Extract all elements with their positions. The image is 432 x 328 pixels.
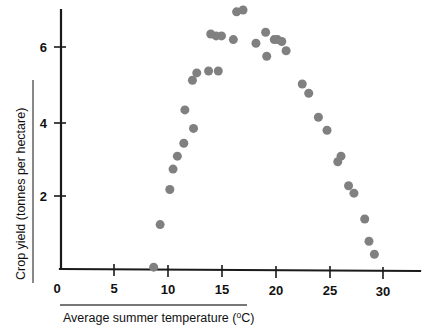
data-point (298, 80, 307, 89)
data-point (180, 105, 189, 114)
data-point (217, 31, 226, 40)
data-point (344, 181, 353, 190)
y-tick-label-2: 2 (40, 189, 47, 204)
data-point (349, 189, 358, 198)
chart-canvas: 6 4 2 0 5 10 15 20 25 30 Average summer … (0, 0, 432, 328)
x-tick-label-5: 5 (110, 281, 117, 296)
data-point (165, 185, 174, 194)
data-point (323, 126, 332, 135)
data-point (156, 220, 165, 229)
data-point (314, 113, 323, 122)
x-tick-label-25: 25 (323, 283, 337, 298)
data-point (239, 6, 248, 15)
data-point (337, 152, 346, 161)
data-point (304, 89, 313, 98)
data-point (149, 263, 158, 272)
scatter-chart-figure: 6 4 2 0 5 10 15 20 25 30 Average summer … (0, 0, 432, 328)
x-tick-label-20: 20 (269, 283, 283, 298)
y-axis-title: Crop yield (tonnes per hectare) (14, 108, 28, 280)
x-tick-label-15: 15 (215, 282, 229, 297)
data-point (179, 139, 188, 148)
data-point (365, 237, 374, 246)
data-point (204, 67, 213, 76)
data-point (277, 37, 286, 46)
y-tick-label-6: 6 (40, 40, 47, 55)
data-point (262, 52, 271, 61)
x-tick-label-10: 10 (161, 282, 175, 297)
data-point (251, 39, 260, 48)
x-axis-title-unit: C) (241, 311, 254, 325)
data-points-group (149, 6, 379, 272)
y-tick-label-4: 4 (40, 116, 48, 131)
x-axis-title-main: Average summer temperature ( (63, 311, 237, 325)
x-tick-label-0: 0 (53, 281, 60, 296)
x-axis-title: Average summer temperature (oC) (63, 310, 254, 325)
data-point (229, 35, 238, 44)
x-tick-label-30: 30 (376, 284, 390, 299)
data-point (360, 215, 369, 224)
data-point (261, 28, 270, 37)
data-point (189, 124, 198, 133)
data-point (169, 165, 178, 174)
data-point (214, 67, 223, 76)
data-point (370, 250, 379, 259)
data-point (192, 68, 201, 77)
data-point (173, 152, 182, 161)
data-point (282, 46, 291, 55)
